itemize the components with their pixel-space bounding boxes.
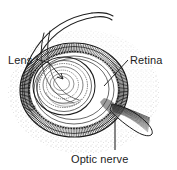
- label-optic-nerve: Optic nerve: [71, 153, 128, 165]
- eye-anatomy-figure: Lens Retina Optic nerve: [0, 0, 177, 170]
- label-retina: Retina: [130, 54, 162, 66]
- eye-diagram-svg: [0, 0, 177, 170]
- label-lens: Lens: [8, 54, 32, 66]
